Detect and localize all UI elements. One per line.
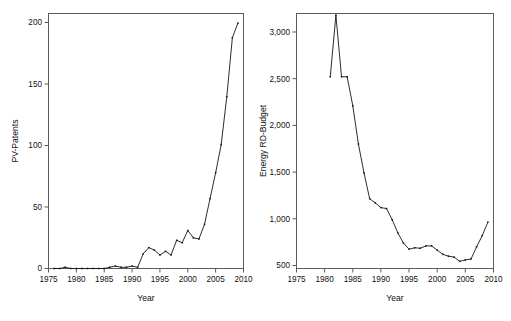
data-point [358,143,360,145]
x-tick-label: 2005 [456,275,475,284]
plot-frame [297,14,494,269]
y-tick-label: 3,000 [270,28,291,37]
x-axis-ticks [297,269,494,273]
data-point [481,235,483,237]
data-point [159,254,161,256]
data-point [391,219,393,221]
data-point [126,267,128,269]
data-point [436,249,438,251]
data-point [193,237,195,239]
x-tick-label: 1985 [95,275,114,284]
data-point [176,240,178,242]
x-tick-label: 2005 [206,275,225,284]
data-point [232,37,234,39]
panel-pv-patents: 0 50 100 150 200 1975 1980 1 [0,0,256,321]
data-point [109,267,111,269]
data-point [187,230,189,232]
data-point [103,268,105,270]
data-point [209,198,211,200]
data-point [81,268,83,270]
data-point [397,232,399,234]
x-axis-ticks [49,269,244,273]
data-point [352,105,354,107]
data-point [220,144,222,146]
data-point [215,172,217,174]
x-tick-label: 1990 [372,275,391,284]
x-tick-label: 2000 [179,275,198,284]
data-point [403,242,405,244]
energy-rd-budget-svg: 500 1,000 1,500 2,000 2,500 3,000 19 [255,0,511,321]
data-point [64,267,66,269]
data-point [92,268,94,270]
y-tick-label: 2,500 [270,75,291,84]
x-tick-label: 2010 [484,275,503,284]
x-axis-tick-labels: 1975 1980 1985 1990 1995 2000 2005 2010 [287,275,503,284]
y-axis-ticks [293,32,297,266]
pv-patents-svg: 0 50 100 150 200 1975 1980 1 [0,0,256,321]
data-point [442,254,444,256]
y-axis-tick-labels: 500 1,000 1,500 2,000 2,500 3,000 [270,28,291,270]
y-tick-label: 150 [28,80,42,89]
data-point [335,14,337,16]
x-tick-label: 1995 [400,275,419,284]
y-tick-label: 0 [37,264,42,273]
data-point [53,268,55,270]
data-point [154,249,156,251]
data-series-line [54,23,238,268]
data-point [476,246,478,248]
y-axis-title: PV-Patents [10,120,20,163]
data-point [487,221,489,223]
data-point [181,242,183,244]
data-point [408,248,410,250]
data-point [237,22,239,24]
data-point [448,255,450,257]
data-point [165,251,167,253]
data-point [386,208,388,210]
data-point [330,76,332,78]
y-tick-label: 1,500 [270,168,291,177]
x-tick-label: 1990 [123,275,142,284]
data-point [346,76,348,78]
x-tick-label: 2000 [428,275,447,284]
figure-two-panel-line-charts: 0 50 100 150 200 1975 1980 1 [0,0,511,321]
y-tick-label: 50 [33,203,43,212]
y-axis-tick-labels: 0 50 100 150 200 [28,18,42,273]
x-tick-label: 1980 [315,275,334,284]
x-tick-label: 1975 [39,275,58,284]
data-point [70,268,72,270]
x-axis-tick-labels: 1975 1980 1985 1990 1995 2000 2005 2010 [39,275,253,284]
y-axis-title: Energy RD-Budget [258,104,268,177]
y-tick-label: 1,000 [270,215,291,224]
data-point [453,256,455,258]
data-point [380,207,382,209]
x-tick-label: 1995 [151,275,170,284]
data-point [420,248,422,250]
data-point [98,268,100,270]
y-tick-label: 200 [28,18,42,27]
data-point [59,268,61,270]
data-point [148,247,150,249]
data-point [170,254,172,256]
data-point [369,198,371,200]
data-point [87,268,89,270]
data-series-line [330,15,488,261]
y-tick-label: 500 [276,261,290,270]
data-series-markers [53,22,238,269]
data-point [459,261,461,263]
x-tick-label: 1980 [67,275,86,284]
plot-frame [49,14,244,269]
data-point [198,238,200,240]
x-axis-title: Year [137,293,155,303]
panel-energy-rd-budget: 500 1,000 1,500 2,000 2,500 3,000 19 [255,0,511,321]
x-tick-label: 1985 [344,275,363,284]
data-point [131,265,133,267]
x-tick-label: 2010 [234,275,253,284]
data-point [142,253,144,255]
x-tick-label: 1975 [287,275,306,284]
data-point [341,76,343,78]
data-point [204,224,206,226]
data-point [425,245,427,247]
data-point [431,245,433,247]
data-point [363,172,365,174]
data-point [226,96,228,98]
